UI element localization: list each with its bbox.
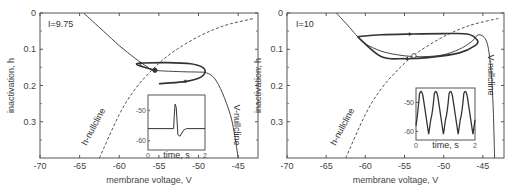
y-tick-label: 0.3 — [23, 117, 36, 127]
inset-y-tick-label: -50 — [404, 99, 414, 106]
inset-y-tick-label: -60 — [136, 137, 146, 144]
y-axis-label: inactivation, h — [253, 58, 263, 113]
x-tick-label: -60 — [113, 161, 126, 171]
inset-x-tick-label: 2 — [203, 152, 207, 159]
y-tick-label: 0.2 — [23, 81, 36, 91]
right-panel-plot: -70-65-60-55-50-4500.10.20.3membrane vol… — [253, 8, 504, 185]
inset-frame — [416, 88, 475, 140]
inset-voltage-trace: -50-6002time, s — [404, 88, 477, 150]
x-tick-label: -45 — [476, 161, 489, 171]
inset-x-axis-label: time, s — [432, 140, 459, 150]
trajectory-arrow-icon — [409, 32, 413, 36]
x-tick-label: -50 — [192, 161, 205, 171]
x-tick-label: -70 — [33, 161, 46, 171]
h-nullcline-label: h-nullcline — [328, 106, 356, 146]
inset-y-tick-label: -50 — [136, 107, 146, 114]
y-axis-label: inactivation, h — [6, 58, 16, 113]
trajectory-curve — [137, 63, 206, 84]
v-nullcline-label: V-nullcline — [486, 54, 496, 95]
figure: -70-65-60-55-50-4500.10.20.3membrane vol… — [0, 0, 520, 194]
inset-x-tick-label: 2 — [473, 142, 477, 149]
x-axis-label: membrane voltage, V — [106, 175, 192, 185]
current-annotation: I=10 — [296, 19, 314, 29]
x-tick-label: -60 — [359, 161, 372, 171]
trajectory-arrow-icon — [405, 57, 409, 61]
x-tick-label: -45 — [232, 161, 245, 171]
current-annotation: I=9.75 — [48, 19, 73, 29]
inset-x-axis-label: time, s — [163, 150, 190, 160]
inset-x-tick-label: 0 — [414, 142, 418, 149]
inset-frame — [148, 95, 205, 150]
x-tick-label: -65 — [73, 161, 86, 171]
limit-cycle-curve — [358, 33, 478, 58]
x-tick-label: -55 — [152, 161, 165, 171]
x-tick-label: -65 — [320, 161, 333, 171]
x-tick-label: -70 — [280, 161, 293, 171]
x-tick-label: -50 — [437, 161, 450, 171]
h-nullcline-label: h-nullcline — [79, 106, 107, 146]
y-tick-label: 0 — [31, 8, 36, 18]
left-panel-plot: -70-65-60-55-50-4500.10.20.3membrane vol… — [6, 8, 258, 185]
fixed-point-marker — [412, 54, 416, 58]
y-tick-label: 0.2 — [270, 81, 283, 91]
y-tick-label: 0.1 — [270, 44, 283, 54]
v-nullcline-label: V-nullcline — [232, 104, 242, 145]
inset-y-tick-label: -60 — [404, 128, 414, 135]
x-axis-label: membrane voltage, V — [353, 175, 439, 185]
inset-x-tick-label: 0 — [146, 152, 150, 159]
x-tick-label: -55 — [398, 161, 411, 171]
y-tick-label: 0.1 — [23, 44, 36, 54]
y-tick-label: 0 — [278, 8, 283, 18]
y-tick-label: 0.3 — [270, 117, 283, 127]
inset-voltage-trace: -50-6002time, s — [136, 95, 207, 160]
fixed-point-marker — [153, 68, 157, 72]
